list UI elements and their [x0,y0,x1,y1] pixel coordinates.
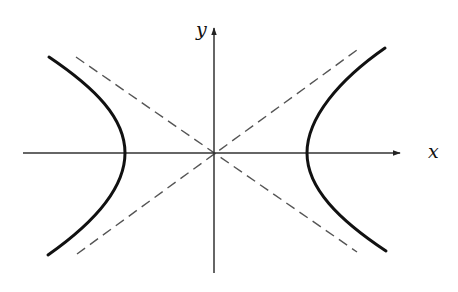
asymptote-negative-slope [76,57,357,252]
hyperbola-diagram: y x [0,0,458,292]
y-axis-label: y [195,18,207,40]
hyperbola-right-branch [307,48,386,251]
hyperbola-left-branch [48,57,125,255]
x-axis-label: x [428,140,439,162]
